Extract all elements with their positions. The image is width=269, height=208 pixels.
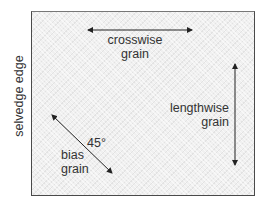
bias-line1: bias: [61, 148, 89, 162]
crosswise-grain-label: crosswise grain: [105, 33, 165, 61]
bias-grain-label: bias grain: [61, 148, 89, 176]
bias-angle-label: 45°: [87, 136, 106, 150]
lengthwise-line2: grain: [160, 115, 229, 129]
crosswise-line2: grain: [105, 47, 165, 61]
lengthwise-line1: lengthwise: [160, 101, 229, 115]
crosswise-line1: crosswise: [105, 33, 165, 47]
bias-line2: grain: [61, 162, 89, 176]
lengthwise-grain-label: lengthwise grain: [160, 101, 229, 129]
selvedge-edge-label: selvedge edge: [12, 55, 26, 136]
